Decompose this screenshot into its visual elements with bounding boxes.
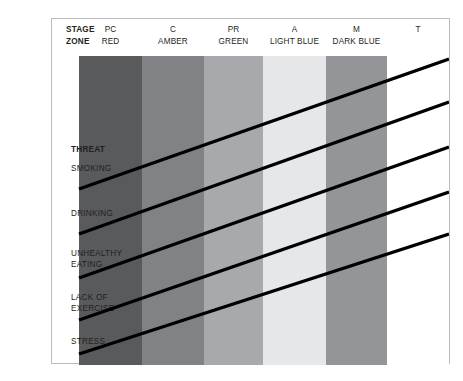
header-column-pr: PR GREEN — [204, 24, 263, 47]
header-column-c-stage: C — [142, 24, 204, 36]
threat-row-label: STRESS — [71, 337, 105, 348]
header-column-t: T — [387, 24, 449, 36]
threat-row-label: LACK OF EXERCISE — [71, 293, 114, 314]
header-column-pr-zone: GREEN — [204, 36, 263, 48]
zone-band-c — [142, 56, 204, 365]
header-column-pr-stage: PR — [204, 24, 263, 36]
matrix-frame: STAGE ZONE PC RED C AMBER PR GREEN A LIG… — [51, 18, 450, 364]
header-column-m: M DARK BLUE — [326, 24, 387, 47]
header-column-pc-zone: RED — [79, 36, 142, 48]
header-column-a-zone: LIGHT BLUE — [263, 36, 326, 48]
header-column-t-stage: T — [387, 24, 449, 36]
zone-band-m — [326, 56, 387, 365]
header-column-a-stage: A — [263, 24, 326, 36]
header-row: STAGE ZONE PC RED C AMBER PR GREEN A LIG… — [52, 19, 449, 56]
header-column-c: C AMBER — [142, 24, 204, 47]
header-column-pc: PC RED — [79, 24, 142, 47]
threat-row-label: DRINKING — [71, 209, 113, 220]
zone-band-t — [387, 56, 449, 365]
threat-row-label: UNHEALTHY EATING — [71, 249, 122, 270]
zone-band-a — [263, 56, 326, 365]
header-column-m-stage: M — [326, 24, 387, 36]
zone-band-pr — [204, 56, 263, 365]
header-column-c-zone: AMBER — [142, 36, 204, 48]
threat-row-label: SMOKING — [71, 164, 111, 175]
chart-canvas: STAGE ZONE PC RED C AMBER PR GREEN A LIG… — [0, 0, 463, 381]
threat-heading: THREAT — [71, 145, 105, 156]
header-column-pc-stage: PC — [79, 24, 142, 36]
header-column-m-zone: DARK BLUE — [326, 36, 387, 48]
header-column-a: A LIGHT BLUE — [263, 24, 326, 47]
